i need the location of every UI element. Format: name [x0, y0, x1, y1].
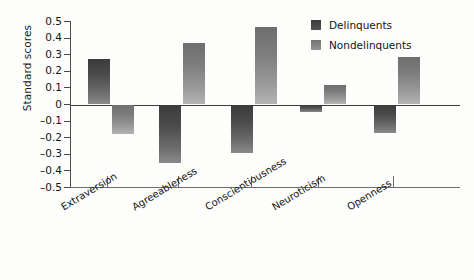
bar-chart: Standard scores 0.50.40.30.20.10–0.1–0.2…	[0, 0, 474, 280]
y-axis-tick-label-text: –0.4	[22, 164, 62, 176]
y-axis-tick-label-text: 0.4	[22, 31, 62, 43]
x-axis-line	[70, 187, 460, 188]
y-axis-tick-label-text: –0.5	[22, 181, 62, 193]
bar-nondelinquents-conscientiousness	[255, 27, 277, 104]
x-axis-tick	[393, 176, 394, 187]
bar-delinquents-neuroticism	[300, 105, 322, 112]
y-axis-tick	[64, 21, 70, 22]
bar-delinquents-extraversion	[88, 59, 110, 105]
x-axis-tick-label: Extraversion	[59, 171, 119, 213]
y-axis-tick-label-text: 0.5	[22, 15, 62, 27]
y-axis-tick-label-text: 0.2	[22, 64, 62, 76]
y-axis-tick	[64, 187, 70, 188]
bar-delinquents-conscientiousness	[231, 105, 253, 154]
bar-nondelinquents-neuroticism	[324, 85, 346, 104]
x-axis-tick-label: Neuroticism	[270, 172, 327, 212]
legend-label: Nondelinquents	[329, 39, 412, 51]
y-axis-tick-label-text: –0.3	[22, 147, 62, 159]
y-axis-tick	[64, 71, 70, 72]
bar-delinquents-agreeableness	[159, 105, 181, 164]
bar-nondelinquents-extraversion	[112, 105, 134, 135]
y-axis-tick-label-text: –0.1	[22, 114, 62, 126]
legend: Delinquents Nondelinquents	[311, 16, 412, 56]
y-axis-tick	[64, 154, 70, 155]
bar-nondelinquents-openness	[398, 57, 420, 104]
x-axis-tick-label: Agreeableness	[130, 165, 199, 212]
legend-item-delinquents[interactable]: Delinquents	[311, 16, 412, 33]
y-axis-tick-label-text: 0.1	[22, 81, 62, 93]
legend-swatch-icon	[311, 20, 321, 30]
bar-delinquents-openness	[374, 105, 396, 133]
y-axis-tick	[64, 121, 70, 122]
legend-item-nondelinquents[interactable]: Nondelinquents	[311, 36, 412, 53]
y-axis-tick	[64, 104, 70, 105]
y-axis-tick	[64, 87, 70, 88]
y-axis-tick-label-text: 0	[22, 98, 62, 110]
bar-nondelinquents-agreeableness	[183, 43, 205, 104]
y-axis-tick	[64, 38, 70, 39]
y-axis-tick	[64, 170, 70, 171]
legend-swatch-icon	[311, 40, 321, 50]
legend-label: Delinquents	[329, 19, 392, 31]
y-axis-tick	[64, 137, 70, 138]
y-axis-tick	[64, 54, 70, 55]
x-axis-tick-label: Openness	[345, 177, 393, 212]
y-axis-tick-label-text: –0.2	[22, 131, 62, 143]
y-axis-tick-label-text: 0.3	[22, 48, 62, 60]
